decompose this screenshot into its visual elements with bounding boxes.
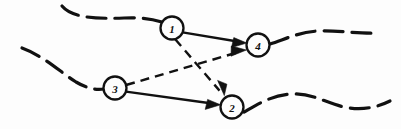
node-3-label: 3 [111, 83, 118, 95]
node-4[interactable]: 4 [247, 34, 270, 57]
node-4-label: 4 [254, 40, 261, 52]
node-2[interactable]: 2 [221, 96, 244, 119]
figure-container: 1 4 3 2 [0, 0, 401, 129]
figure-background [0, 0, 401, 129]
node-3[interactable]: 3 [104, 77, 127, 100]
node-2-label: 2 [228, 102, 235, 114]
graph-figure: 1 4 3 2 [0, 0, 401, 129]
node-1[interactable]: 1 [161, 17, 184, 40]
node-1-label: 1 [169, 23, 175, 35]
